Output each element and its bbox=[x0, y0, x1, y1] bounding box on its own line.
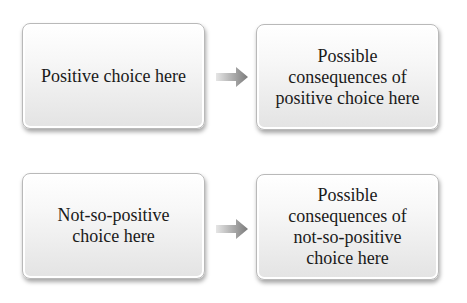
choice-label: Not-so-positive choice here bbox=[49, 205, 179, 247]
arrow-right-icon bbox=[216, 67, 248, 87]
choice-box-positive: Positive choice here bbox=[22, 23, 205, 129]
consequence-box-positive: Possible consequences of positive choice… bbox=[256, 24, 439, 130]
consequence-box-not-so-positive: Possible consequences of not-so-positive… bbox=[256, 174, 439, 280]
consequence-label: Possible consequences of not-so-positive… bbox=[283, 185, 413, 269]
arrow-right-icon bbox=[216, 219, 248, 239]
choice-box-not-so-positive: Not-so-positive choice here bbox=[22, 173, 205, 279]
choice-label: Positive choice here bbox=[41, 66, 186, 87]
consequence-label: Possible consequences of positive choice… bbox=[273, 46, 423, 109]
